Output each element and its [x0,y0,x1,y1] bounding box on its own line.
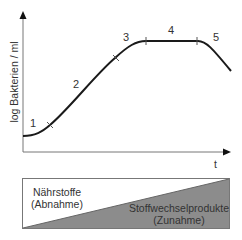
growth-curve-diagram: 1 2 3 4 5 log Bakterien / ml t Nährstoff… [0,0,242,240]
x-axis-label: t [214,158,217,170]
phase-label-5: 5 [213,31,219,43]
phase-label-2: 2 [73,78,79,90]
phase-label-1: 1 [30,117,36,129]
phase-label-3: 3 [123,31,129,43]
growth-curve [23,41,231,136]
metabolites-sublabel: (Zunahme) [153,214,204,226]
nutrients-sublabel: (Abnahme) [31,198,83,210]
x-axis-arrow-icon [223,149,231,156]
nutrients-label: Nährstoffe [33,186,81,198]
y-axis-arrow-icon [20,11,27,19]
metabolites-label: Stoffwechselprodukte [129,202,229,214]
y-axis-label: log Bakterien / ml [8,41,20,122]
phase-label-4: 4 [168,24,174,36]
